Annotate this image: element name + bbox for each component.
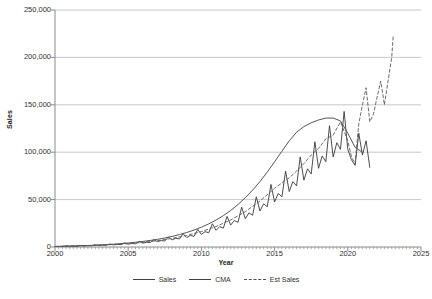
x-tick-label: 2025 bbox=[401, 249, 432, 258]
x-tick-label: 2000 bbox=[35, 249, 75, 258]
x-axis-title: Year bbox=[196, 259, 256, 266]
x-tick-label: 2020 bbox=[328, 249, 368, 258]
legend-label: Sales bbox=[159, 276, 177, 283]
legend-item: CMA bbox=[189, 276, 231, 283]
y-tick-label: 250,000 bbox=[5, 6, 51, 14]
x-tick-label: 2015 bbox=[255, 249, 295, 258]
series-line-sales bbox=[55, 111, 370, 246]
y-tick-label: 100,000 bbox=[5, 148, 51, 156]
chart-legend: SalesCMAEst Sales bbox=[0, 276, 432, 283]
y-tick-label: 150,000 bbox=[5, 101, 51, 109]
y-tick-label: 200,000 bbox=[5, 53, 51, 61]
sales-chart: Sales Year 050,000100,000150,000200,0002… bbox=[0, 0, 432, 299]
legend-label: Est Sales bbox=[270, 276, 300, 283]
legend-swatch-solid bbox=[133, 279, 155, 280]
legend-swatch-dashed bbox=[244, 279, 266, 280]
x-tick-label: 2010 bbox=[181, 249, 221, 258]
y-tick-label: 50,000 bbox=[5, 196, 51, 204]
legend-item: Est Sales bbox=[244, 276, 300, 283]
x-tick-label: 2005 bbox=[108, 249, 148, 258]
legend-label: CMA bbox=[215, 276, 231, 283]
series-line-cma bbox=[62, 118, 362, 246]
legend-item: Sales bbox=[133, 276, 177, 283]
legend-swatch-solid bbox=[189, 279, 211, 280]
